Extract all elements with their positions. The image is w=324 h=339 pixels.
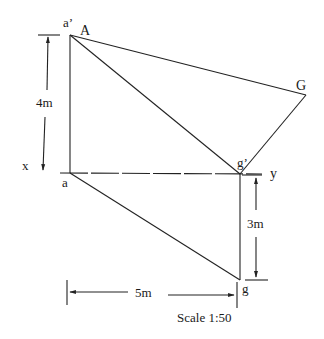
line-A-G	[70, 35, 306, 95]
label-x: x	[22, 158, 29, 173]
dim-label-5m: 5m	[135, 285, 152, 300]
label-g: g	[242, 281, 249, 296]
line-a-prime-g-prime	[70, 35, 240, 174]
dim-4m-arrow-upper	[47, 37, 48, 90]
label-A: A	[80, 23, 91, 38]
label-G: G	[296, 78, 306, 93]
dim-4m-arrow-lower	[43, 117, 45, 170]
dim-label-3m: 3m	[247, 216, 264, 231]
label-a: a	[62, 175, 68, 190]
label-y: y	[270, 166, 277, 181]
label-a-prime: a’	[63, 15, 73, 30]
xy-reference-line	[60, 173, 262, 174]
label-g-prime: g’	[237, 155, 248, 170]
line-G-g-prime	[240, 95, 306, 174]
scale-label: Scale 1:50	[177, 310, 232, 325]
dim-label-4m: 4m	[36, 95, 53, 110]
projection-diagram: a’ A G g’ a g x y 4m 3m 5m Scale 1:50	[0, 0, 324, 339]
line-a-g-plan	[70, 173, 240, 280]
